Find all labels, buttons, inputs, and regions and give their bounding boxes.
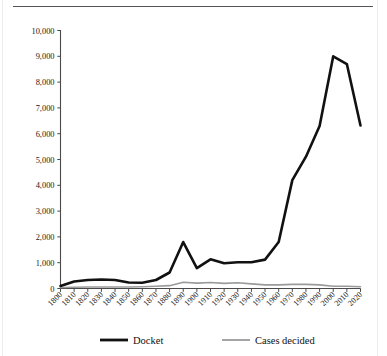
y-axis-tick-label: 10,000: [31, 27, 54, 36]
legend-label-docket: Docket: [133, 335, 163, 346]
y-axis-tick-label: 4,000: [36, 181, 55, 190]
chart-plot-area: 01,0002,0003,0004,0005,0006,0007,0008,00…: [0, 0, 387, 356]
figure-page: 01,0002,0003,0004,0005,0006,0007,0008,00…: [0, 0, 387, 356]
y-axis-tick-label: 2,000: [36, 233, 55, 242]
y-axis-tick-label: 8,000: [36, 78, 55, 87]
y-axis-tick-label: 0: [50, 285, 54, 294]
series-line-docket: [61, 56, 361, 286]
y-axis-tick-label: 6,000: [36, 130, 55, 139]
y-axis-tick-label: 3,000: [36, 207, 55, 216]
legend-label-cases-decided: Cases decided: [255, 335, 316, 346]
y-axis-tick-label: 1,000: [36, 259, 55, 268]
y-axis-tick-label: 9,000: [36, 52, 55, 61]
y-axis-tick-label: 7,000: [36, 104, 55, 113]
x-axis-tick-label: 2020: [346, 290, 364, 308]
line-chart: 01,0002,0003,0004,0005,0006,0007,0008,00…: [0, 0, 387, 356]
y-axis-tick-label: 5,000: [36, 156, 55, 165]
series-line-cases-decided: [61, 282, 361, 287]
